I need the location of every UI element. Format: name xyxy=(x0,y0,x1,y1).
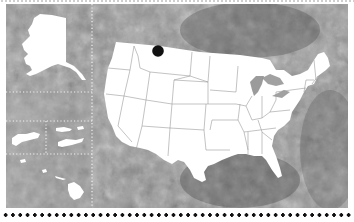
bottom-dotted-rule xyxy=(2,213,352,217)
us-locator-map: United States locator map xyxy=(6,4,348,208)
location-marker-icon xyxy=(152,45,164,57)
map-canvas xyxy=(6,4,348,208)
top-dotted-rule xyxy=(0,0,354,2)
